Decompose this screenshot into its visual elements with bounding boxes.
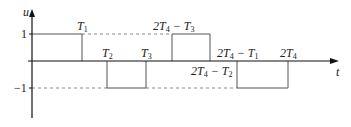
pulse-3-positive [172,34,210,61]
label-T1: T1 [77,20,88,36]
label-2T4-minus-T1: 2T4 − T1 [217,47,258,63]
t-axis-label: t [336,66,339,78]
label-2T4-minus-T1-post: − T [234,46,255,60]
y-tick-1: 1 [21,28,27,40]
label-2T4-pre: 2T [280,46,293,60]
label-2T4-minus-T2-pre: 2T [191,64,204,78]
label-2T4-minus-T1-sub2: 1 [254,52,258,61]
pulse-4-negative [237,61,288,88]
label-T2-sub: 2 [109,52,113,61]
label-T3-base: T [141,46,148,60]
label-2T4-sub: 4 [293,52,297,61]
y-tick-minus1: −1 [14,82,27,94]
label-T2-base: T [102,46,109,60]
label-2T4-minus-T3-pre: 2T [153,19,166,33]
label-T2: T2 [102,47,113,63]
label-2T4-minus-T3-post: − T [170,19,191,33]
label-2T4-minus-T2: 2T4 − T2 [191,65,232,81]
label-T1-sub: 1 [84,25,88,34]
label-2T4-minus-T3-sub2: 3 [190,25,194,34]
label-T1-base: T [77,19,84,33]
label-2T4-minus-T1-pre: 2T [217,46,230,60]
u-axis-arrow-icon [29,9,35,17]
label-2T4-minus-T2-sub2: 2 [228,70,232,79]
pulse-1-positive [32,34,82,61]
pulse-2-negative [107,61,146,88]
label-T3: T3 [141,47,152,63]
u-axis-label: u [23,6,29,18]
label-2T4-minus-T2-post: − T [208,64,229,78]
label-2T4-minus-T3: 2T4 − T3 [153,20,194,36]
t-axis-arrow-icon [330,58,339,64]
label-T3-sub: 3 [148,52,152,61]
label-2T4: 2T4 [280,47,297,63]
